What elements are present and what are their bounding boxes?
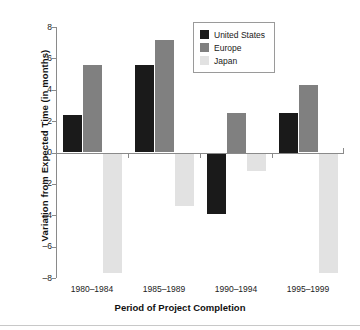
bar (83, 65, 102, 153)
bar (103, 153, 122, 274)
x-tick-label: 1990–1994 (196, 285, 276, 294)
bar (299, 85, 318, 152)
y-tick-label: 0 (12, 148, 52, 157)
y-tick-label: 6 (12, 54, 52, 63)
y-tick-label: –8 (12, 274, 52, 283)
legend-label: United States (214, 30, 265, 40)
x-axis-title: Period of Project Completion (0, 302, 360, 313)
bar (63, 115, 82, 153)
x-tick-mark (128, 153, 129, 158)
x-tick-label: 1980–1984 (52, 285, 132, 294)
y-tick-mark (52, 278, 56, 279)
bar (227, 113, 246, 152)
axis-end-tick (343, 148, 344, 153)
figure-bottom-rule (0, 325, 360, 326)
y-tick-mark (52, 58, 56, 59)
bar (135, 65, 154, 153)
legend-swatch-icon (200, 43, 209, 52)
y-tick-label: –4 (12, 211, 52, 220)
y-tick-mark (52, 121, 56, 122)
y-tick-mark (52, 90, 56, 91)
bar (207, 153, 226, 214)
y-tick-mark (52, 27, 56, 28)
legend-label: Japan (214, 56, 237, 66)
bar (319, 153, 338, 274)
legend-item: Japan (200, 54, 265, 67)
legend-label: Europe (214, 43, 241, 53)
x-tick-mark (272, 153, 273, 158)
y-tick-mark (52, 184, 56, 185)
bar (279, 113, 298, 152)
legend-swatch-icon (200, 30, 209, 39)
bar (155, 40, 174, 153)
x-tick-label: 1995–1999 (268, 285, 348, 294)
x-tick-label: 1985–1989 (124, 285, 204, 294)
chart-legend: United StatesEuropeJapan (193, 22, 275, 73)
x-tick-mark (200, 153, 201, 158)
y-tick-label: 2 (12, 117, 52, 126)
bar (175, 153, 194, 206)
y-tick-label: 8 (12, 23, 52, 32)
y-tick-label: –6 (12, 242, 52, 251)
legend-swatch-icon (200, 56, 209, 65)
bar (247, 153, 266, 172)
bar-chart-figure: Variation from Expected Time (in months)… (0, 0, 360, 330)
y-tick-label: 4 (12, 85, 52, 94)
legend-item: Europe (200, 41, 265, 54)
y-tick-mark (52, 215, 56, 216)
y-tick-mark (52, 247, 56, 248)
y-tick-label: –2 (12, 179, 52, 188)
legend-item: United States (200, 28, 265, 41)
